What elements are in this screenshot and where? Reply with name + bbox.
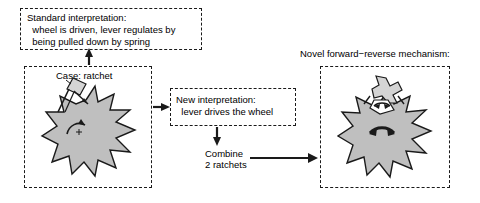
standard-interpretation-line3: being pulled down by spring [27,36,150,48]
combine-label-line1: Combine [205,148,243,160]
arrow-right-icon-combine-to-novel [250,153,318,163]
left-ratchet-figure [38,78,148,186]
novel-mechanism-heading: Novel forward−reverse mechanism: [300,48,450,60]
novel-ratchet-figure [336,76,444,186]
standard-interpretation-line2: wheel is driven, lever regulates by [27,24,175,36]
arrow-right-icon-case-to-new [153,103,170,111]
arrow-up-icon [85,48,93,65]
ratchet-wheel-icon [42,86,135,176]
combine-label-line2: 2 ratchets [205,159,247,171]
standard-interpretation-line1: Standard interpretation: [27,12,126,24]
new-interpretation-line2: lever drives the wheel [176,106,273,118]
diagram-canvas: Standard interpretation: wheel is driven… [0,0,480,203]
arrow-down-icon-new-to-combine [213,127,221,146]
new-interpretation-line1: New interpretation: [176,94,256,106]
